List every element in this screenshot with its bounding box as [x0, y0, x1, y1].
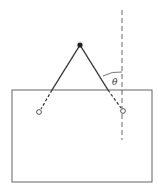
right-string	[80, 45, 108, 90]
left-attachment-ring	[37, 110, 42, 115]
diagram-canvas: θ	[0, 0, 158, 192]
right-attachment-ring	[121, 109, 126, 114]
left-string	[52, 45, 80, 90]
right-string-hidden	[108, 90, 121, 108]
angle-arc	[103, 72, 122, 76]
plate-rectangle	[12, 90, 152, 182]
left-string-hidden	[41, 90, 52, 109]
apex-pivot-point	[77, 42, 82, 47]
theta-label: θ	[112, 77, 118, 87]
